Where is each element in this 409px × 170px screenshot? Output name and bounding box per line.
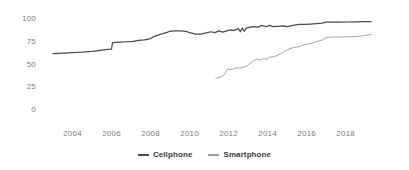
y-tick-label: 50 <box>14 60 36 69</box>
y-tick-label: 75 <box>14 37 36 46</box>
chart-plot-svg <box>0 0 409 145</box>
x-tick-label: 2010 <box>175 129 205 138</box>
x-tick-label: 2006 <box>97 129 127 138</box>
x-tick-label: 2016 <box>292 129 322 138</box>
legend-line-icon-smartphone <box>208 154 219 156</box>
chart-legend: Cellphone Smartphone <box>0 150 409 159</box>
legend-line-icon-cellphone <box>138 154 149 156</box>
y-tick-label: 25 <box>14 82 36 91</box>
x-tick-label: 2004 <box>58 129 88 138</box>
series-line-cellphone <box>53 22 371 54</box>
x-tick-label: 2018 <box>331 129 361 138</box>
x-tick-label: 2014 <box>253 129 283 138</box>
plot-area <box>0 0 409 145</box>
y-tick-label: 0 <box>14 105 36 114</box>
series-line-smartphone <box>216 34 371 78</box>
legend-label-smartphone: Smartphone <box>223 150 271 159</box>
y-tick-label: 100 <box>14 14 36 23</box>
legend-item-smartphone[interactable]: Smartphone <box>208 150 271 159</box>
legend-item-cellphone[interactable]: Cellphone <box>138 150 193 159</box>
legend-label-cellphone: Cellphone <box>153 150 193 159</box>
x-tick-label: 2012 <box>214 129 244 138</box>
line-chart: 0255075100 20042006200820102012201420162… <box>0 0 409 170</box>
x-tick-label: 2008 <box>136 129 166 138</box>
